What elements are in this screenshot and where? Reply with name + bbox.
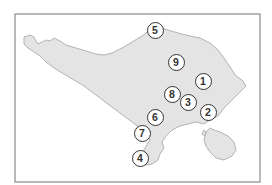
- map-marker-6[interactable]: 6: [147, 109, 164, 126]
- map-marker-9[interactable]: 9: [168, 54, 185, 71]
- map-marker-7[interactable]: 7: [134, 125, 151, 142]
- map-marker-4[interactable]: 4: [132, 150, 149, 167]
- map-marker-5[interactable]: 5: [147, 22, 164, 39]
- map-marker-2[interactable]: 2: [200, 104, 217, 121]
- map-marker-3[interactable]: 3: [180, 94, 197, 111]
- map-marker-1[interactable]: 1: [195, 73, 212, 90]
- map-marker-8[interactable]: 8: [164, 86, 181, 103]
